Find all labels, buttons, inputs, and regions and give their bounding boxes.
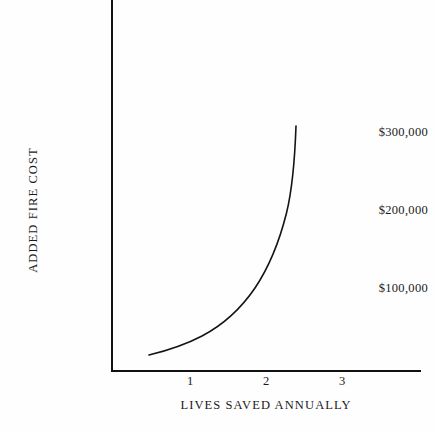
plot-area xyxy=(0,0,434,433)
cost-curve-line xyxy=(149,126,296,355)
chart-figure: $300,000 $200,000 $100,000 1 2 3 ADDED F… xyxy=(0,0,434,433)
